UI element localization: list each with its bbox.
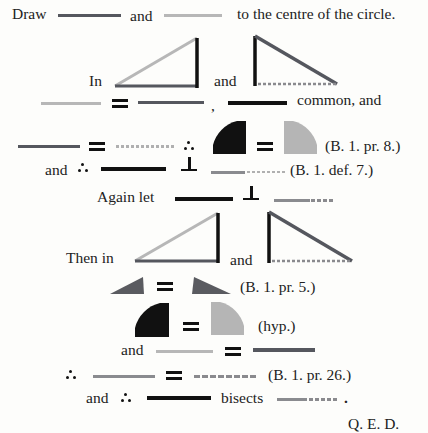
dark-line-segment (58, 14, 121, 17)
medium-line-segment (93, 375, 155, 378)
reference-hyp: (hyp.) (258, 318, 295, 334)
black-angle-icon (213, 121, 247, 154)
medium-line-segment (211, 171, 245, 174)
dark-line-segment (138, 101, 204, 104)
medium-line-segment (277, 398, 307, 401)
dotted-line-segment (311, 199, 335, 202)
dark-line-segment (18, 145, 80, 148)
text-and-4: and (230, 252, 252, 268)
equals-icon (112, 99, 128, 108)
text-common-and: common, and (297, 92, 381, 108)
triangle-left-icon (132, 210, 222, 265)
medium-line-segment (274, 199, 310, 202)
text-and-5: and (121, 342, 143, 358)
triangle-left-icon (112, 36, 202, 90)
black-angle-icon (135, 303, 169, 337)
light-line-segment (164, 14, 222, 17)
dashed-line-segment (194, 375, 258, 378)
dotted-line-segment (116, 145, 174, 148)
dotted-line-segment (309, 398, 339, 401)
text-draw: Draw (12, 6, 46, 22)
triangle-right-icon (266, 210, 358, 266)
dark-line-segment (253, 348, 315, 352)
therefore-icon (121, 393, 131, 402)
reference-b1-pr26: (B. 1. pr. 26.) (268, 367, 351, 383)
black-line-segment (228, 101, 287, 105)
equals-icon (183, 322, 199, 331)
equals-icon (157, 282, 173, 291)
reference-b1-pr8: (B. 1. pr. 8.) (325, 138, 400, 154)
black-line-segment (175, 197, 233, 201)
text-bisects: bisects (221, 390, 263, 406)
triangle-right-icon (252, 34, 344, 90)
perpendicular-icon (243, 186, 259, 200)
text-then-in: Then in (66, 250, 114, 266)
dark-triangle-angle-right-icon (192, 275, 232, 295)
text-and-2: and (214, 73, 236, 89)
equals-icon (225, 347, 241, 356)
text-again-let: Again let (97, 189, 154, 205)
reference-b1-def7: (B. 1. def. 7.) (290, 162, 373, 178)
dark-triangle-angle-left-icon (110, 275, 145, 295)
period: . (344, 390, 348, 406)
text-and-6: and (86, 390, 108, 406)
gray-angle-icon (284, 121, 317, 154)
perpendicular-icon (181, 157, 197, 171)
dotted-line-segment (247, 171, 285, 173)
equals-icon (166, 371, 182, 380)
black-line-segment (147, 396, 211, 400)
qed-label: Q. E. D. (348, 416, 399, 432)
comma: , (211, 98, 215, 114)
therefore-icon (66, 370, 76, 379)
reference-b1-pr5: (B. 1. pr. 5.) (240, 279, 315, 295)
text-centre-circle: to the centre of the circle. (237, 6, 395, 22)
text-in: In (89, 73, 102, 89)
equals-icon (89, 142, 105, 151)
black-line-segment (101, 167, 166, 171)
therefore-icon (78, 163, 88, 172)
gray-angle-icon (211, 302, 244, 335)
text-and-3: and (45, 162, 67, 178)
light-line-segment (41, 102, 101, 105)
equals-icon (257, 142, 273, 151)
light-line-segment (156, 350, 213, 353)
text-and: and (130, 8, 152, 24)
therefore-icon (184, 141, 194, 150)
